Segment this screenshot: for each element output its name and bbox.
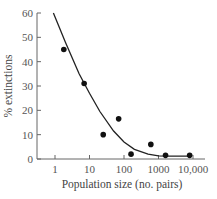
y-tick-label: 50 [22,31,34,43]
y-tick-label: 30 [22,80,34,92]
data-point [187,153,193,159]
y-axis: 0102030405060 [22,7,41,165]
x-axis: 110100100010,000 [37,155,209,175]
x-axis-title: Population size (no. pairs) [62,178,183,191]
x-tick-label: 1000 [148,163,171,175]
data-point [116,116,122,122]
data-point [128,151,134,157]
data-point [61,47,67,53]
y-axis-title: % extinctions [2,54,14,117]
data-point [163,153,169,159]
x-tick-label: 10 [84,163,96,175]
y-tick-label: 40 [22,56,34,68]
x-tick-label: 10,000 [178,163,209,175]
y-tick-label: 0 [28,153,34,165]
y-tick-label: 60 [22,7,34,19]
x-tick-label: 1 [52,163,58,175]
data-point [148,142,154,148]
data-point [100,132,106,138]
y-tick-label: 20 [22,104,34,116]
data-point [81,81,87,87]
data-points [61,47,192,158]
x-tick-label: 100 [116,163,133,175]
fitted-curve [53,13,189,156]
y-tick-label: 10 [22,129,34,141]
extinction-chart: 0102030405060 110100100010,000 % extinct… [0,0,217,199]
